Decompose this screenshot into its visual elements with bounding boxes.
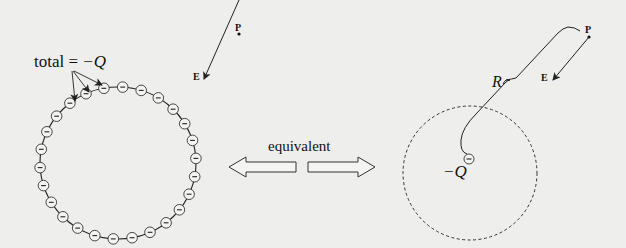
total-label: total = −Q: [34, 52, 106, 71]
field-vector-e-right: [553, 37, 589, 80]
distance-r-label: R: [491, 73, 502, 90]
point-p-label: P: [235, 22, 241, 33]
ring-charges: [35, 82, 201, 244]
arrow-to-charge-1: [72, 71, 75, 101]
equivalence-indicator: equivalent: [229, 138, 375, 177]
point-p-label-right: P: [585, 24, 591, 35]
point-charge-equivalent: R P E −Q: [403, 24, 591, 240]
point-p-dot: [237, 32, 240, 35]
diagram-canvas: total = −Q P E equivalent R P E −Q: [0, 0, 626, 248]
field-e-label: E: [193, 71, 200, 82]
equivalent-label: equivalent: [268, 138, 331, 154]
distance-brace-lower: [461, 80, 510, 154]
field-vector-e: [204, 0, 239, 79]
left-hollow-arrow-icon: [229, 157, 296, 177]
charge-label: −Q: [443, 162, 467, 181]
charged-ring: [35, 82, 201, 244]
left-field-point: P E: [193, 0, 241, 82]
field-e-label-right: E: [541, 72, 548, 83]
total-charge-annotation: total = −Q: [34, 52, 106, 101]
dashed-gaussian-circle: [403, 106, 537, 240]
right-hollow-arrow-icon: [308, 157, 375, 177]
